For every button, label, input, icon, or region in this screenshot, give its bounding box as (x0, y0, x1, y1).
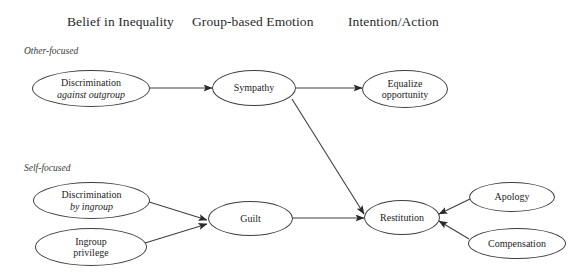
node-label-apology: Apology (491, 191, 534, 202)
edge-compensation-to-restitution (439, 221, 469, 239)
node-line1: Equalize (388, 78, 423, 89)
node-discrimination-against-outgroup[interactable]: Discrimination against outgroup (32, 70, 150, 107)
edge-apology-to-restitution (439, 199, 470, 214)
edge-discrimination-ingroup-to-guilt (146, 201, 207, 220)
node-label-discrimination-by-ingroup: Discrimination by ingroup (58, 189, 126, 211)
edge-sympathy-to-restitution (292, 99, 364, 214)
node-label-guilt: Guilt (236, 213, 265, 224)
node-compensation[interactable]: Compensation (468, 228, 566, 259)
concept-diagram: Belief in Inequality Group-based Emotion… (0, 0, 575, 278)
node-label-sympathy: Sympathy (230, 82, 279, 93)
column-header-intention-action: Intention/Action (348, 14, 439, 30)
node-line2: by ingroup (70, 201, 113, 212)
edge-ingroup-privilege-to-guilt (145, 224, 207, 243)
section-label-other-focused: Other-focused (24, 46, 78, 56)
node-line1: Discrimination (61, 77, 121, 88)
node-label-compensation: Compensation (484, 238, 550, 249)
node-line2: opportunity (382, 89, 429, 100)
node-guilt[interactable]: Guilt (208, 201, 293, 236)
node-label-discrimination-against-outgroup: Discrimination against outgroup (53, 77, 129, 99)
node-label-restitution: Restitution (376, 212, 428, 223)
node-ingroup-privilege[interactable]: Ingroup privilege (35, 228, 147, 266)
node-line1: Ingroup (75, 236, 107, 247)
column-header-belief-in-inequality: Belief in Inequality (67, 14, 174, 30)
section-label-self-focused: Self-focused (24, 163, 70, 173)
column-header-group-based-emotion: Group-based Emotion (192, 14, 314, 30)
node-line2: privilege (73, 247, 109, 258)
node-line1: Discrimination (62, 189, 122, 200)
node-discrimination-by-ingroup[interactable]: Discrimination by ingroup (33, 182, 150, 219)
node-label-equalize-opportunity: Equalize opportunity (378, 78, 433, 100)
node-line2: against outgroup (57, 89, 125, 100)
node-sympathy[interactable]: Sympathy (212, 70, 296, 106)
node-label-ingroup-privilege: Ingroup privilege (69, 236, 113, 258)
node-apology[interactable]: Apology (469, 182, 555, 212)
node-restitution[interactable]: Restitution (364, 200, 440, 235)
node-equalize-opportunity[interactable]: Equalize opportunity (362, 70, 448, 108)
